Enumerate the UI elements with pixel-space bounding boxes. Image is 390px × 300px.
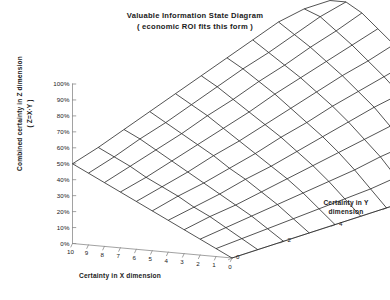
chart-canvas: Valuable Information State Diagram ( eco… [0, 0, 390, 300]
z-tick-label: 10% [44, 224, 70, 231]
y-tick-label: 0 [236, 253, 248, 260]
y-tick-label: 2 [288, 236, 300, 243]
x-tick-label: 4 [160, 257, 172, 264]
mesh-line [279, 22, 390, 191]
mesh-line [150, 112, 310, 233]
z-tick-label: 70% [44, 128, 70, 135]
x-tick-label: 8 [96, 251, 108, 258]
x-tick-label: 2 [192, 260, 204, 267]
x-tick-label: 5 [144, 255, 156, 262]
z-tick-label: 90% [44, 96, 70, 103]
x-tick-label: 9 [80, 249, 92, 256]
y-axis-title-line-2: dimension [329, 208, 364, 215]
mesh-line [124, 130, 284, 242]
z-tick-label: 100% [44, 80, 70, 87]
x-axis-title: Certainty in X dimension [52, 271, 188, 280]
z-axis-title: Combined certainty in Z dimension ( Z=X·… [15, 48, 34, 180]
mesh-line [98, 147, 258, 249]
z-tick-label: 20% [44, 208, 70, 215]
y-tick-label: 4 [339, 220, 351, 227]
x-tick-label: 3 [176, 258, 188, 265]
z-axis-title-line-2: ( Z=X·Y ) [25, 99, 32, 127]
y-axis-title-line-1: Certainty in Y [323, 199, 368, 206]
mesh-line [330, 1, 390, 175]
mesh-line [227, 58, 387, 208]
mesh-line [88, 2, 346, 173]
y-axis-title: Certainty in Y dimension [304, 198, 388, 216]
x-tick-label: 0 [224, 263, 236, 270]
mesh-line [201, 76, 361, 217]
mesh-line [152, 62, 390, 211]
axis-lines [71, 84, 390, 261]
z-tick-label: 30% [44, 192, 70, 199]
z-axis-title-line-1: Combined certainty in Z dimension [16, 56, 23, 171]
z-tick-label: 80% [44, 112, 70, 119]
x-tick-label: 1 [208, 261, 220, 268]
z-tick-label: 50% [44, 160, 70, 167]
z-tick-label: 40% [44, 176, 70, 183]
mesh-line [73, 1, 331, 164]
x-tick-label: 7 [112, 252, 124, 259]
z-tick-label: 60% [44, 144, 70, 151]
x-tick-label: 6 [128, 254, 140, 261]
mesh-line [120, 29, 378, 192]
x-tick-label: 10 [65, 248, 77, 255]
z-tick-label: 0% [44, 240, 70, 247]
mesh-line [304, 9, 390, 183]
mesh-line [200, 122, 390, 239]
